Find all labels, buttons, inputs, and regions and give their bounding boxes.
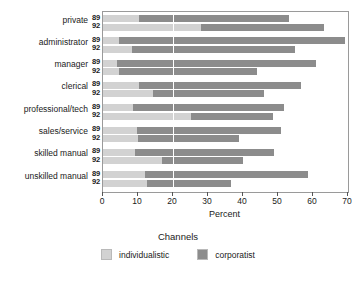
bar-segment-individualistic — [103, 68, 119, 75]
bar-segment-corporatist — [201, 24, 324, 31]
x-tick-label-40: 40 — [230, 196, 254, 206]
category-label-private: private — [62, 15, 88, 25]
stacked-bar-chart: 8992private8992administrator8992manager8… — [0, 0, 356, 281]
bar-segment-individualistic — [103, 46, 132, 53]
category-label-clerical: clerical — [62, 81, 88, 91]
legend-label-corporatist: corporatist — [215, 250, 255, 260]
legend-label-individualistic: individualistic — [119, 250, 169, 260]
bar-segment-corporatist — [138, 135, 239, 142]
bar-segment-corporatist — [145, 171, 308, 178]
bar-segment-individualistic — [103, 127, 137, 134]
bar-segment-corporatist — [137, 127, 281, 134]
x-tick-label-70: 70 — [335, 196, 356, 206]
bar-segment-individualistic — [103, 180, 147, 187]
year-label-92: 92 — [92, 111, 100, 119]
bar-segment-corporatist — [162, 157, 243, 164]
x-tick-label-50: 50 — [265, 196, 289, 206]
legend: individualisticcorporatist — [0, 249, 356, 260]
bar-segment-individualistic — [103, 149, 135, 156]
bar-segment-corporatist — [119, 68, 257, 75]
bar-segment-individualistic — [103, 82, 139, 89]
bar-segment-individualistic — [103, 90, 153, 97]
year-label-92: 92 — [92, 67, 100, 75]
legend-entry-individualistic[interactable]: individualistic — [101, 249, 169, 260]
year-label-92: 92 — [92, 44, 100, 52]
category-label-professional-tech: professional/tech — [24, 104, 88, 114]
bar-segment-corporatist — [191, 113, 273, 120]
bar-segment-corporatist — [147, 180, 231, 187]
year-label-92: 92 — [92, 134, 100, 142]
legend-entry-corporatist[interactable]: corporatist — [197, 249, 255, 260]
x-tick-label-0: 0 — [90, 196, 114, 206]
category-label-unskilled-manual: unskilled manual — [25, 171, 88, 181]
legend-swatch-corporatist — [197, 249, 208, 260]
bar-segment-corporatist — [135, 149, 274, 156]
year-label-92: 92 — [92, 89, 100, 97]
category-label-skilled-manual: skilled manual — [34, 148, 88, 158]
x-axis-title: Percent — [102, 209, 347, 219]
bar-segment-corporatist — [139, 82, 301, 89]
bar-segment-corporatist — [117, 60, 316, 67]
category-label-sales-service: sales/service — [39, 126, 88, 136]
bar-segment-corporatist — [119, 37, 345, 44]
bar-segment-individualistic — [103, 157, 162, 164]
category-label-administrator: administrator — [39, 37, 88, 47]
year-label-92: 92 — [92, 178, 100, 186]
year-label-92: 92 — [92, 22, 100, 30]
legend-title: Channels — [0, 231, 356, 242]
x-tick-label-60: 60 — [300, 196, 324, 206]
bar-segment-individualistic — [103, 60, 117, 67]
year-label-89: 89 — [92, 58, 100, 66]
x-tick-label-30: 30 — [195, 196, 219, 206]
bar-segment-individualistic — [103, 171, 145, 178]
year-label-89: 89 — [92, 125, 100, 133]
bar-segment-corporatist — [132, 46, 295, 53]
bar-segment-individualistic — [103, 15, 139, 22]
bar-segment-corporatist — [133, 104, 284, 111]
x-tick-label-10: 10 — [125, 196, 149, 206]
bar-segment-corporatist — [153, 90, 264, 97]
bars-container — [103, 12, 348, 192]
category-label-manager: manager — [54, 59, 88, 69]
legend-swatch-individualistic — [101, 249, 112, 260]
bar-segment-individualistic — [103, 135, 138, 142]
bar-segment-individualistic — [103, 113, 191, 120]
bar-segment-individualistic — [103, 104, 133, 111]
bar-segment-individualistic — [103, 37, 119, 44]
x-tick-label-20: 20 — [160, 196, 184, 206]
bar-segment-individualistic — [103, 24, 201, 31]
bar-segment-corporatist — [139, 15, 289, 22]
reference-gridline — [173, 12, 174, 192]
year-label-92: 92 — [92, 156, 100, 164]
plot-area — [102, 11, 349, 193]
